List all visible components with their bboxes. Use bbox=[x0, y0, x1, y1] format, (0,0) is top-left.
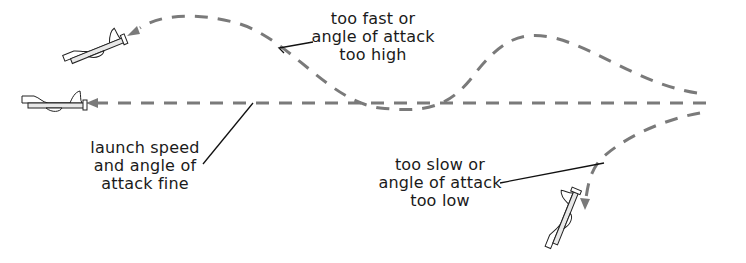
label-line: too low bbox=[364, 192, 516, 210]
glider-plane-icon bbox=[539, 184, 582, 252]
arrowhead-icon bbox=[86, 98, 98, 108]
label-line: attack fine bbox=[80, 175, 210, 193]
label-line: too high bbox=[288, 46, 458, 64]
arrowhead-icon bbox=[127, 26, 140, 36]
label-too-low: too slow or angle of attack too low bbox=[364, 156, 516, 210]
trajectory-low-path bbox=[586, 113, 700, 198]
leader-line-fine bbox=[203, 103, 253, 164]
glider-plane-icon bbox=[60, 26, 128, 69]
label-line: launch speed bbox=[80, 139, 210, 157]
label-line: and angle of bbox=[80, 157, 210, 175]
glider-plane-icon bbox=[22, 91, 87, 111]
label-fine: launch speed and angle of attack fine bbox=[80, 139, 210, 193]
label-line: too fast or bbox=[288, 10, 458, 28]
label-line: too slow or bbox=[364, 156, 516, 174]
label-line: angle of attack bbox=[364, 174, 516, 192]
label-too-high: too fast or angle of attack too high bbox=[288, 10, 458, 64]
label-line: angle of attack bbox=[288, 28, 458, 46]
arrowhead-icon bbox=[580, 198, 590, 210]
